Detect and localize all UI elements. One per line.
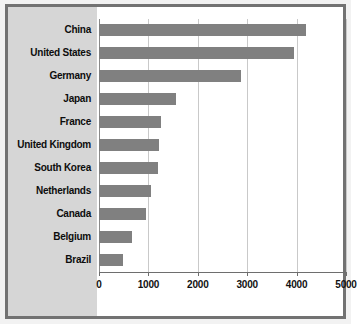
category-label: Japan — [8, 93, 91, 104]
tick-label-5000: 5000 — [335, 279, 356, 290]
bar-row — [99, 249, 346, 272]
tick-label-3000: 3000 — [236, 279, 257, 290]
bar — [99, 231, 132, 243]
tick-label-2000: 2000 — [187, 279, 208, 290]
category-label: South Korea — [8, 162, 91, 173]
bar — [99, 116, 161, 128]
tick-label-0: 0 — [96, 279, 101, 290]
category-label: China — [8, 24, 91, 35]
bar-row — [99, 180, 346, 203]
category-label: Canada — [8, 208, 91, 219]
tick-mark-2000 — [198, 272, 199, 276]
chart-frame: ChinaUnited StatesGermanyJapanFranceUnit… — [5, 4, 346, 319]
category-label: United Kingdom — [8, 139, 91, 150]
category-label: United States — [8, 47, 91, 58]
bar — [99, 24, 306, 36]
tick-mark-0 — [99, 272, 100, 276]
tick-mark-1000 — [148, 272, 149, 276]
bar-row — [99, 203, 346, 226]
bar-row — [99, 134, 346, 157]
tick-mark-4000 — [297, 272, 298, 276]
bar-row — [99, 19, 346, 42]
bar-row — [99, 226, 346, 249]
category-label: France — [8, 116, 91, 127]
bar — [99, 93, 176, 105]
bar — [99, 185, 151, 197]
category-label: Brazil — [8, 254, 91, 265]
bar-row — [99, 88, 346, 111]
bar-row — [99, 65, 346, 88]
tick-label-1000: 1000 — [138, 279, 159, 290]
bar — [99, 70, 241, 82]
tick-mark-5000 — [346, 272, 347, 276]
gridline-5000 — [346, 19, 347, 272]
bar-row — [99, 111, 346, 134]
bar-row — [99, 157, 346, 180]
bar — [99, 208, 146, 220]
category-label: Germany — [8, 70, 91, 81]
x-axis-line — [99, 272, 347, 273]
bar — [99, 47, 294, 59]
bar — [99, 139, 159, 151]
bar-row — [99, 42, 346, 65]
tick-label-4000: 4000 — [286, 279, 307, 290]
bar — [99, 162, 158, 174]
category-label: Netherlands — [8, 185, 91, 196]
category-label: Belgium — [8, 231, 91, 242]
bar — [99, 254, 123, 266]
tick-mark-3000 — [247, 272, 248, 276]
